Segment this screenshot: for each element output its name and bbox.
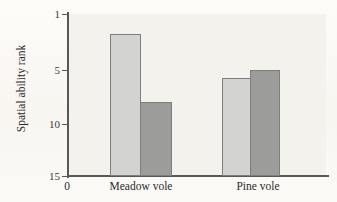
bar-pine-vole-dark <box>250 70 280 176</box>
y-tick-label-5: 5 <box>36 65 60 76</box>
cut-off-header-text <box>22 0 262 4</box>
x-category-label-meadow-vole: Meadow vole <box>86 180 196 193</box>
y-tick-mark-5 <box>62 70 68 71</box>
bar-meadow-vole-dark <box>140 102 172 176</box>
y-tick-label-15-wrap: 15 <box>32 171 60 182</box>
y-axis-title: Spatial ability rank <box>15 24 28 154</box>
bar-pine-vole-light <box>222 78 251 176</box>
origin-label: 0 <box>58 180 76 193</box>
x-axis-line <box>67 175 329 177</box>
bar-meadow-vole-light <box>110 34 141 176</box>
y-tick-label-15: 15 <box>36 171 60 182</box>
y-tick-label-5-wrap: 5 <box>32 65 60 76</box>
y-axis-line <box>67 12 69 178</box>
y-tick-label-10: 10 <box>36 119 60 130</box>
y-tick-mark-15 <box>62 176 68 177</box>
y-tick-mark-10 <box>62 124 68 125</box>
y-tick-label-1-wrap: 1 <box>32 9 60 20</box>
y-tick-label-10-wrap: 10 <box>32 119 60 130</box>
y-tick-label-1: 1 <box>36 9 60 20</box>
x-category-label-pine-vole: Pine vole <box>208 180 308 193</box>
figure-container: 1 5 10 15 Meadow vole Pine vole 0 Spatia… <box>0 0 337 202</box>
y-tick-mark-1 <box>62 14 68 15</box>
plot-area <box>68 14 326 176</box>
